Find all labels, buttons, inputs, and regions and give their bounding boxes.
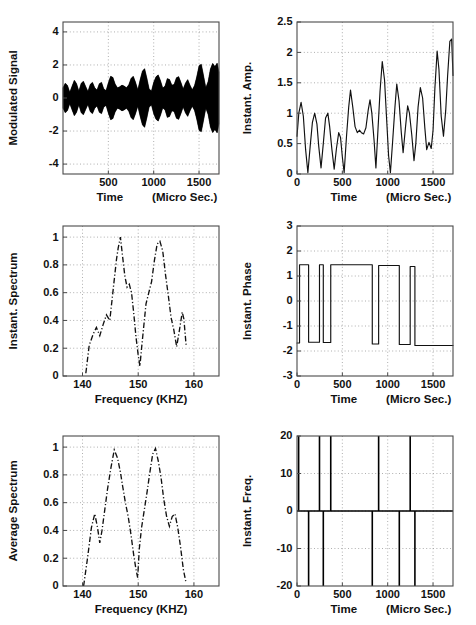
- y-tick-label: 0.5: [277, 137, 292, 149]
- y-tick-label: 0.6: [43, 286, 58, 298]
- x-tick-label: 1500: [187, 176, 211, 188]
- x-tick-label: 1500: [421, 588, 445, 600]
- plot-instant-amplitude: 05001000150000.511.522.5Time(Micro Sec.)…: [238, 0, 476, 208]
- x-axis-label-primary: Time: [330, 191, 357, 203]
- instant-frequency-svg: 050010001500-20-1001020Time(Micro Sec.)I…: [238, 416, 476, 625]
- instant-spectrum-svg: 14015016000.20.40.60.81Frequency (KHZ)In…: [0, 208, 238, 416]
- x-axis-label-units: (Micro Sec.): [386, 603, 451, 615]
- x-tick-label: 0: [294, 176, 300, 188]
- x-tick-label: 150: [129, 588, 147, 600]
- y-tick-label: -2: [283, 344, 293, 356]
- x-tick-label: 0: [294, 378, 300, 390]
- x-tick-label: 500: [333, 588, 351, 600]
- x-tick-label: 140: [73, 588, 91, 600]
- x-tick-label: 160: [185, 378, 203, 390]
- x-tick-label: 500: [99, 176, 117, 188]
- x-tick-label: 1000: [141, 176, 165, 188]
- y-tick-label: 0: [52, 369, 58, 381]
- x-tick-label: 500: [333, 176, 351, 188]
- y-tick-label: 2: [52, 58, 58, 70]
- x-tick-label: 1500: [421, 176, 445, 188]
- y-tick-label: 0.8: [43, 258, 58, 270]
- y-tick-label: 1.5: [277, 76, 292, 88]
- y-tick-label: 0.8: [43, 468, 58, 480]
- x-tick-label: 500: [333, 378, 351, 390]
- y-tick-label: 0.2: [43, 342, 58, 354]
- average-spectrum-svg: 14015016000.20.40.60.81Frequency (KHZ)Av…: [0, 416, 238, 625]
- x-axis-label-primary: Time: [330, 393, 357, 405]
- plot-instant-frequency: 050010001500-20-1001020Time(Micro Sec.)I…: [238, 416, 476, 625]
- x-axis-label-units: (Micro Sec.): [386, 191, 451, 203]
- y-tick-label: -1: [283, 319, 293, 331]
- x-axis-label: Frequency (KHZ): [95, 393, 188, 405]
- y-tick-label: 2.5: [277, 15, 292, 27]
- y-tick-label: -10: [277, 542, 293, 554]
- x-axis-label-units: (Micro Sec.): [386, 393, 451, 405]
- y-tick-label: 1: [52, 441, 58, 453]
- modulated-signal-svg: 50010001500-4-2024Time(Micro Sec.)Modula…: [0, 0, 238, 208]
- instant-amplitude-svg: 05001000150000.511.522.5Time(Micro Sec.)…: [238, 0, 476, 208]
- x-axis-label-units: (Micro Sec.): [152, 191, 217, 203]
- x-tick-label: 160: [185, 588, 203, 600]
- plot-average-spectrum: 14015016000.20.40.60.81Frequency (KHZ)Av…: [0, 416, 238, 625]
- y-tick-label: 0: [286, 504, 292, 516]
- y-tick-label: 20: [280, 429, 292, 441]
- y-tick-label: -2: [49, 124, 59, 136]
- x-tick-label: 1500: [421, 378, 445, 390]
- y-tick-label: 0.4: [43, 314, 59, 326]
- y-tick-label: 2: [286, 46, 292, 58]
- x-tick-label: 1000: [375, 176, 399, 188]
- y-axis-label: Average Spectrum: [7, 460, 19, 561]
- y-tick-label: -20: [277, 579, 293, 591]
- plot-instant-phase: 050010001500-3-2-10123Time(Micro Sec.)In…: [238, 208, 476, 416]
- y-tick-label: 0: [286, 167, 292, 179]
- x-axis-label-primary: Time: [96, 191, 123, 203]
- x-tick-label: 1000: [375, 588, 399, 600]
- y-tick-label: 2: [286, 244, 292, 256]
- plot-area: [63, 226, 219, 376]
- y-tick-label: 0: [286, 294, 292, 306]
- y-tick-label: 0: [52, 579, 58, 591]
- y-tick-label: -3: [283, 369, 293, 381]
- x-axis-label-primary: Time: [330, 603, 357, 615]
- y-tick-label: 4: [52, 25, 59, 37]
- figure-canvas: 50010001500-4-2024Time(Micro Sec.)Modula…: [0, 0, 476, 625]
- y-axis-label: Instant. Phase: [241, 262, 253, 340]
- y-axis-label: Modulated Signal: [7, 50, 19, 145]
- x-tick-label: 1000: [375, 378, 399, 390]
- y-tick-label: 10: [280, 467, 292, 479]
- instant-phase-svg: 050010001500-3-2-10123Time(Micro Sec.)In…: [238, 208, 476, 416]
- x-tick-label: 150: [129, 378, 147, 390]
- y-axis-label: Instant. Amp.: [241, 62, 253, 134]
- y-tick-label: 0.6: [43, 496, 58, 508]
- y-tick-label: 0.2: [43, 552, 58, 564]
- y-axis-label: Instant. Freq.: [241, 475, 253, 547]
- y-tick-label: -4: [49, 157, 60, 169]
- y-axis-label: Instant. Spectrum: [7, 252, 19, 349]
- y-tick-label: 0.4: [43, 524, 59, 536]
- x-axis-label: Frequency (KHZ): [95, 603, 188, 615]
- y-tick-label: 3: [286, 219, 292, 231]
- plot-modulated-signal: 50010001500-4-2024Time(Micro Sec.)Modula…: [0, 0, 238, 208]
- plot-instant-spectrum: 14015016000.20.40.60.81Frequency (KHZ)In…: [0, 208, 238, 416]
- x-tick-label: 140: [73, 378, 91, 390]
- y-tick-label: 0: [52, 91, 58, 103]
- y-tick-label: 1: [286, 107, 292, 119]
- y-tick-label: 1: [52, 231, 58, 243]
- y-tick-label: 1: [286, 269, 292, 281]
- x-tick-label: 0: [294, 588, 300, 600]
